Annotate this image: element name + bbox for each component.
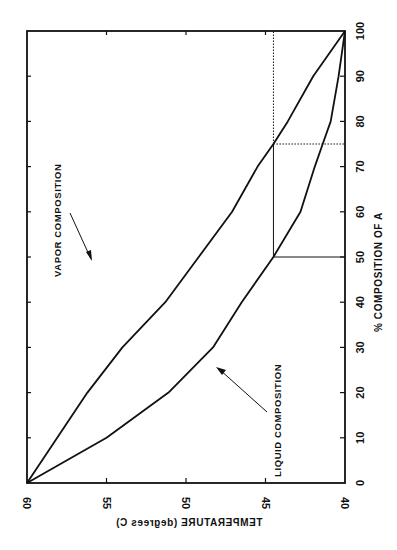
x-tick-label: 90 [354,70,366,82]
x-tick-label: 60 [354,206,366,218]
y-tick-label: 50 [180,497,192,509]
liquid-annotation: LIQUID COMPOSITION [216,364,283,477]
x-tick-label: 40 [354,296,366,308]
x-axis-title: % COMPOSITION OF A [373,212,384,332]
x-tick-label: 10 [354,432,366,444]
liquid-arrow [219,369,267,412]
x-tick-label: 80 [354,115,366,127]
x-tick-label: 50 [354,251,366,263]
x-tick-label: 20 [354,386,366,398]
vapor-annotation: VAPOR COMPOSITION [52,164,92,277]
x-tick-label: 30 [354,341,366,353]
x-tick-label: 70 [354,160,366,172]
y-tick-label: 45 [260,497,272,509]
liquid-composition-label: LIQUID COMPOSITION [272,364,283,477]
y-axis-title: TEMPERATURE (degrees C) [116,517,263,528]
x-tick-label: 100 [354,22,366,40]
y-tick-label: 40 [339,497,351,509]
phase-diagram-chart: 01020304050607080901006055504540 VAPOR C… [0,0,397,550]
vapor-arrowhead-icon [86,250,92,261]
y-tick-label: 55 [101,497,113,509]
tie-lines [273,31,345,257]
y-tick-label: 60 [21,497,33,509]
x-tick-label: 0 [354,480,366,486]
vapor-composition-label: VAPOR COMPOSITION [52,164,63,277]
